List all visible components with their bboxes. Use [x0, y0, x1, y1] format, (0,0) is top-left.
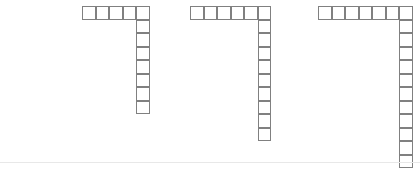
grid-cell [258, 74, 272, 88]
grid-cell [399, 6, 413, 20]
grid-cell [399, 20, 413, 34]
grid-cell [136, 33, 150, 47]
grid-cell [345, 6, 359, 20]
grid-cell [399, 33, 413, 47]
grid-cell [136, 6, 150, 20]
grid-cell [204, 6, 218, 20]
grid-cell [399, 114, 413, 128]
grid-cell [82, 6, 96, 20]
figure-canvas [0, 0, 420, 169]
grid-cell [258, 87, 272, 101]
grid-cell [258, 60, 272, 74]
grid-cell [258, 128, 272, 142]
grid-cell [258, 20, 272, 34]
grid-cell [258, 6, 272, 20]
grid-cell [399, 141, 413, 155]
grid-cell [258, 114, 272, 128]
grid-cell [399, 60, 413, 74]
grid-cell [258, 101, 272, 115]
grid-cell [399, 101, 413, 115]
grid-cell [372, 6, 386, 20]
grid-cell [258, 47, 272, 61]
grid-cell [96, 6, 110, 20]
grid-cell [136, 47, 150, 61]
grid-cell [244, 6, 258, 20]
grid-cell [109, 6, 123, 20]
grid-cell [190, 6, 204, 20]
grid-cell [123, 6, 137, 20]
grid-cell [136, 20, 150, 34]
grid-cell [359, 6, 373, 20]
grid-cell [136, 60, 150, 74]
grid-cell [136, 74, 150, 88]
grid-cell [136, 101, 150, 115]
grid-cell [399, 87, 413, 101]
bottom-divider [0, 162, 420, 163]
grid-cell [332, 6, 346, 20]
grid-cell [399, 74, 413, 88]
grid-cell [136, 87, 150, 101]
grid-cell [258, 33, 272, 47]
grid-cell [217, 6, 231, 20]
grid-cell [318, 6, 332, 20]
grid-cell [231, 6, 245, 20]
grid-cell [399, 128, 413, 142]
grid-cell [386, 6, 400, 20]
grid-cell [399, 47, 413, 61]
